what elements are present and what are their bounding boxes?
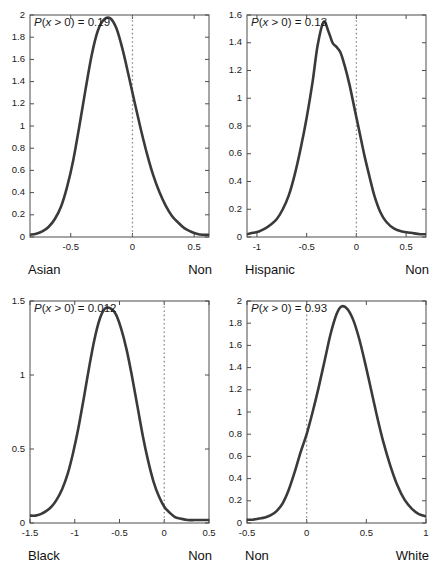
- y-tick-label: 0.4: [12, 186, 25, 197]
- y-tick-label: 0.8: [229, 428, 242, 439]
- right-end-label: Non: [188, 262, 212, 277]
- x-tick-label: -1.5: [22, 527, 38, 538]
- panel-black: 00.511.5-1.5-1-0.500.5P(x > 0) = 0.012Bl…: [0, 286, 217, 572]
- panel-asian: 00.20.40.60.811.21.41.61.82-0.500.5P(x >…: [0, 0, 217, 286]
- y-tick-label: 0.5: [12, 443, 25, 454]
- y-tick-label: 1: [20, 369, 25, 380]
- panel-hispanic: 00.20.40.60.811.21.41.6-1-0.500.5P(x > 0…: [217, 0, 434, 286]
- probability-annotation: P(x > 0) = 0.012: [34, 302, 116, 314]
- density-curve: [30, 307, 209, 520]
- y-tick-label: 1.8: [12, 31, 25, 42]
- y-tick-label: 0.6: [229, 450, 242, 461]
- y-tick-label: 1.4: [229, 361, 242, 372]
- left-end-label: Non: [245, 548, 269, 563]
- y-tick-label: 1.2: [229, 64, 242, 75]
- x-tick-label: -1: [71, 527, 79, 538]
- y-tick-label: 1.6: [229, 9, 242, 20]
- y-tick-label: 0: [20, 231, 25, 242]
- x-tick-label: 0.5: [360, 527, 373, 538]
- probability-annotation: P(x > 0) = 0.13: [251, 16, 327, 28]
- x-tick-label: -0.5: [63, 241, 79, 252]
- y-tick-label: 0.2: [229, 203, 242, 214]
- x-tick-label: 0.5: [400, 241, 413, 252]
- y-tick-label: 0.8: [229, 120, 242, 131]
- y-tick-label: 0.2: [229, 494, 242, 505]
- y-tick-label: 1: [20, 120, 25, 131]
- x-tick-label: -0.5: [111, 527, 127, 538]
- left-end-label: Hispanic: [245, 262, 295, 277]
- y-tick-label: 1.4: [229, 36, 242, 47]
- x-tick-label: 0: [354, 241, 359, 252]
- multi-panel-density-figure: 00.20.40.60.811.21.41.61.82-0.500.5P(x >…: [0, 0, 434, 572]
- y-tick-label: 1.5: [12, 295, 25, 306]
- x-tick-label: 0: [130, 241, 135, 252]
- right-end-label: Non: [188, 548, 212, 563]
- y-tick-label: 1: [237, 92, 242, 103]
- plot-frame: [30, 301, 209, 523]
- y-tick-label: 1: [237, 406, 242, 417]
- x-tick-label: -0.5: [298, 241, 314, 252]
- left-end-label: Black: [28, 548, 60, 563]
- right-end-label: Non: [405, 262, 429, 277]
- left-end-label: Asian: [28, 262, 61, 277]
- y-tick-label: 1.2: [12, 97, 25, 108]
- panel-non: 00.20.40.60.811.21.41.61.82-0.500.51P(x …: [217, 286, 434, 572]
- y-tick-label: 1.6: [12, 53, 25, 64]
- y-tick-label: 0.6: [229, 147, 242, 158]
- y-tick-label: 1.2: [229, 383, 242, 394]
- x-tick-label: 0: [304, 527, 309, 538]
- y-tick-label: 2: [20, 9, 25, 20]
- x-tick-label: 0: [162, 527, 167, 538]
- y-tick-label: 1.6: [229, 339, 242, 350]
- density-curve: [247, 22, 426, 235]
- density-curve: [30, 17, 209, 234]
- y-tick-label: 1.8: [229, 317, 242, 328]
- y-tick-label: 0: [20, 517, 25, 528]
- x-tick-label: -1: [253, 241, 261, 252]
- y-tick-label: 2: [237, 295, 242, 306]
- y-tick-label: 0.4: [229, 472, 242, 483]
- x-tick-label: 1: [423, 527, 428, 538]
- y-tick-label: 0: [237, 231, 242, 242]
- y-tick-label: 0: [237, 517, 242, 528]
- y-tick-label: 0.2: [12, 208, 25, 219]
- right-end-label: White: [396, 548, 429, 563]
- probability-annotation: P(x > 0) = 0.19: [34, 16, 110, 28]
- x-tick-label: 0.5: [188, 241, 201, 252]
- x-tick-label: -0.5: [239, 527, 255, 538]
- y-tick-label: 0.8: [12, 142, 25, 153]
- y-tick-label: 1.4: [12, 75, 25, 86]
- y-tick-label: 0.4: [229, 175, 242, 186]
- y-tick-label: 0.6: [12, 164, 25, 175]
- plot-frame: [30, 15, 209, 237]
- x-tick-label: 0.5: [202, 527, 215, 538]
- density-curve: [247, 306, 426, 520]
- probability-annotation: P(x > 0) = 0.93: [251, 302, 327, 314]
